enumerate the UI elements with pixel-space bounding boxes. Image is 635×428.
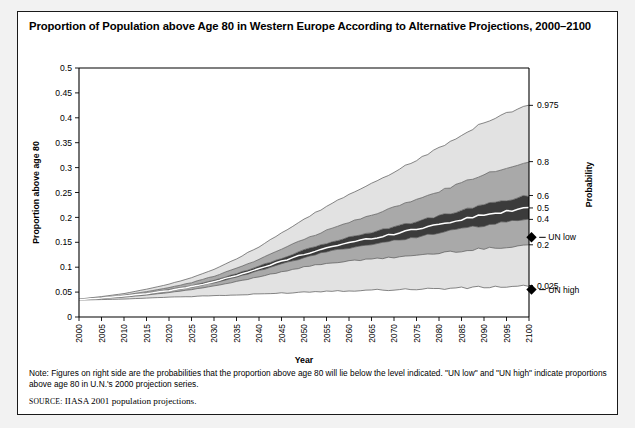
probability-tick-label: 0.8 [537,157,549,167]
x-tick-label: 2090 [479,324,489,343]
probability-tick-label: 0.6 [537,191,549,201]
probability-tick-label: 0.5 [537,203,549,213]
probability-tick-label: 0.975 [537,100,559,110]
y-tick-label: 0.25 [55,188,72,198]
x-tick-label: 2005 [97,324,107,343]
x-tick-label: 2035 [232,324,242,343]
y-tick-label: 0.4 [60,113,72,123]
probability-tick-label: 0.4 [537,214,549,224]
x-tick-label: 2095 [502,324,512,343]
x-tick-label: 2020 [164,324,174,343]
x-tick-label: 2055 [322,324,332,343]
x-tick-label: 2070 [389,324,399,343]
x-tick-label: 2030 [209,324,219,343]
x-tick-label: 2010 [119,324,129,343]
y-tick-label: 0.15 [55,237,72,247]
x-tick-label: 2080 [434,324,444,343]
y-tick-label: 0 [67,312,72,322]
x-tick-label: 2100 [524,324,534,343]
plot-area: 00.050.10.150.20.250.30.350.40.450.52000… [0,0,635,428]
source-text: IIASA 2001 population projections. [65,396,197,406]
chart-svg: 00.050.10.150.20.250.30.350.40.450.52000… [0,0,635,428]
y-tick-label: 0.05 [55,287,72,297]
x-tick-label: 2065 [367,324,377,343]
figure-note: Note: Figures on right side are the prob… [29,368,607,389]
x-tick-label: 2015 [142,324,152,343]
projection-bands-group [79,105,529,300]
y-tick-label: 0.1 [60,262,72,272]
x-tick-label: 2050 [299,324,309,343]
y2-axis-title: Probability [584,162,594,208]
y-tick-label: 0.5 [60,63,72,73]
y-tick-label: 0.2 [60,213,72,223]
x-axis-title: Year [295,355,314,365]
y-tick-label: 0.45 [55,88,72,98]
note-text: Figures on right side are the probabilit… [29,368,607,389]
x-tick-label: 2040 [254,324,264,343]
x-tick-label: 2000 [74,324,84,343]
x-tick-label: 2025 [187,324,197,343]
x-tick-label: 2045 [277,324,287,343]
figure-container: Proportion of Population above Age 80 in… [0,0,635,428]
note-label: Note: [29,368,49,378]
y-tick-label: 0.35 [55,138,72,148]
source-label: SOURCE: [29,397,62,406]
x-tick-label: 2060 [344,324,354,343]
y-tick-label: 0.3 [60,163,72,173]
un-marker-label: UN high [548,285,579,295]
x-tick-label: 2075 [412,324,422,343]
un-marker-label: UN low [548,232,576,242]
figure-source: SOURCE: IIASA 2001 population projection… [29,396,607,406]
y-axis-title: Proportion above age 80 [31,141,41,244]
x-tick-label: 2085 [457,324,467,343]
